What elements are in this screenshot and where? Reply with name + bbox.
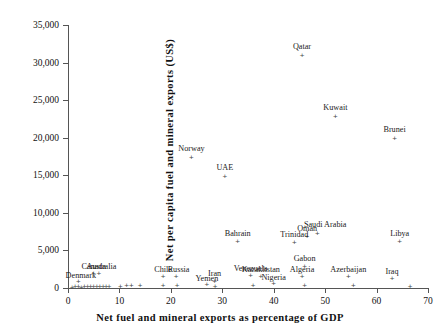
x-tick-mark — [325, 288, 326, 293]
data-point-label: Bahrain — [225, 229, 251, 238]
data-point-label: Canada — [81, 262, 106, 271]
data-point-label: Qatar — [293, 42, 311, 51]
data-point: + — [160, 282, 167, 289]
data-point: + — [396, 238, 403, 245]
x-tick-label: 60 — [372, 296, 382, 306]
y-tick-label: 5,000 — [38, 245, 59, 255]
data-point: + — [128, 282, 135, 289]
data-point: + — [299, 52, 306, 59]
data-point-label: Denmark — [66, 271, 96, 280]
x-axis-title: Net fuel and mineral exports as percenta… — [0, 312, 440, 323]
data-point: + — [332, 113, 339, 120]
data-point-label: Norway — [178, 144, 204, 153]
data-point: + — [407, 283, 414, 290]
y-tick-label: 25,000 — [33, 95, 59, 105]
data-point: + — [188, 154, 195, 161]
y-axis-ticks: 05,00010,00015,00020,00025,00030,00035,0… — [0, 0, 68, 313]
data-point-label: Gabon — [294, 254, 316, 263]
x-tick-label: 50 — [320, 296, 330, 306]
data-point-label: Yemen — [195, 274, 218, 283]
x-tick-label: 0 — [66, 296, 71, 306]
data-point-label: Iraq — [385, 267, 398, 276]
x-tick-label: 20 — [166, 296, 176, 306]
y-tick-label: 15,000 — [33, 170, 59, 180]
data-point-label: Brunei — [383, 125, 405, 134]
data-point-label: Nigeria — [261, 273, 286, 282]
x-tick-mark — [428, 288, 429, 293]
data-point-label: Kuwait — [323, 103, 347, 112]
data-point: + — [291, 239, 298, 246]
y-tick-label: 30,000 — [33, 58, 59, 68]
x-tick-mark — [171, 288, 172, 293]
x-tick-mark — [222, 288, 223, 293]
x-tick-label: 30 — [218, 296, 228, 306]
y-tick-label: 10,000 — [33, 208, 59, 218]
data-point: + — [173, 273, 180, 280]
y-tick-label: 35,000 — [33, 20, 59, 30]
data-point: + — [299, 273, 306, 280]
x-tick-label: 70 — [423, 296, 433, 306]
data-point-label: Libya — [390, 229, 409, 238]
data-point-label: Trinidad — [280, 230, 308, 239]
x-tick-mark — [377, 288, 378, 293]
data-point: + — [345, 273, 352, 280]
data-point: + — [301, 282, 308, 289]
data-point-label: Chile — [154, 265, 172, 274]
x-tick-label: 10 — [115, 296, 125, 306]
data-point: + — [350, 282, 357, 289]
data-point: + — [234, 238, 241, 245]
data-point: + — [391, 135, 398, 142]
data-point: + — [174, 282, 181, 289]
data-point: + — [250, 282, 257, 289]
data-point: + — [137, 282, 144, 289]
data-point: + — [221, 173, 228, 180]
scatter-chart-figure: Net per capita fuel and mineral exports … — [0, 0, 440, 335]
data-point-label: Algeria — [290, 265, 315, 274]
data-point: + — [160, 273, 167, 280]
data-point: + — [389, 275, 396, 282]
data-point: + — [106, 283, 113, 290]
y-tick-label: 20,000 — [33, 133, 59, 143]
data-point-label: Azerbaijan — [330, 265, 366, 274]
plot-area — [68, 25, 428, 288]
data-point-label: UAE — [216, 163, 233, 172]
x-tick-label: 40 — [269, 296, 279, 306]
x-tick-mark — [274, 288, 275, 293]
